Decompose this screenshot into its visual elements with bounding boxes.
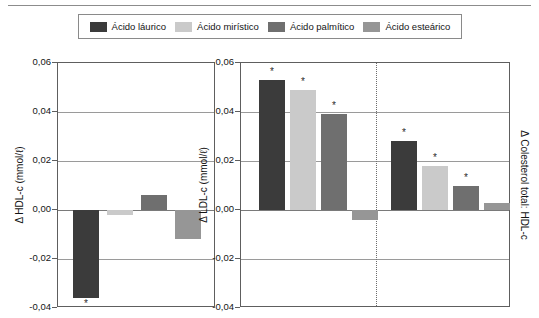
- legend-item-lauric: Ácido láurico: [90, 22, 166, 32]
- gridline: [241, 259, 509, 260]
- significance-marker: *: [433, 153, 437, 163]
- y-tick-label: 0,00: [194, 204, 234, 214]
- significance-marker: *: [270, 67, 274, 77]
- legend-item-myristic: Ácido mirístico: [175, 22, 259, 32]
- legend-label-stearic: Ácido esteárico: [385, 22, 450, 32]
- bar: [321, 114, 347, 210]
- ldl-chart-panel: ******: [240, 62, 510, 307]
- bar: [484, 203, 510, 210]
- y-tick-label: -0,04: [194, 302, 234, 312]
- y-tick-label: 0,04: [194, 106, 234, 116]
- y-tick-label: -0,04: [11, 302, 51, 312]
- legend-label-myristic: Ácido mirístico: [197, 22, 259, 32]
- bar: [422, 166, 448, 210]
- y-tick-label: 0,06: [194, 57, 234, 67]
- legend-swatch-palmitic: [268, 22, 285, 32]
- legend-swatch-lauric: [90, 22, 107, 32]
- bar: [352, 210, 378, 220]
- legend-label-palmitic: Ácido palmítico: [290, 22, 354, 32]
- y-tick-label: -0,02: [11, 253, 51, 263]
- hdl-chart-panel: *: [57, 62, 215, 307]
- bar: [259, 80, 285, 210]
- y-tick-mark: [52, 307, 57, 308]
- chart-legend: Ácido láurico Ácido mirístico Ácido palm…: [78, 14, 462, 39]
- legend-label-lauric: Ácido láurico: [112, 22, 166, 32]
- significance-marker: *: [464, 173, 468, 183]
- significance-marker: *: [84, 299, 88, 309]
- bar: [107, 210, 133, 215]
- bar: [290, 90, 316, 210]
- hdl-plot-area: *: [58, 63, 214, 306]
- bar: [391, 141, 417, 210]
- bar: [453, 186, 479, 211]
- chol-ratio-y-axis-title: Δ Colesterol total: HDL-c: [519, 130, 529, 240]
- group-divider-line: [376, 63, 377, 306]
- significance-marker: *: [301, 77, 305, 87]
- gridline: [58, 112, 214, 113]
- bar: [73, 210, 99, 298]
- y-tick-label: 0,06: [11, 57, 51, 67]
- ldl-plot-area: ******: [241, 63, 509, 306]
- y-tick-label: 0,02: [11, 155, 51, 165]
- legend-swatch-myristic: [175, 22, 192, 32]
- y-tick-label: 0,04: [11, 106, 51, 116]
- y-tick-label: -0,02: [194, 253, 234, 263]
- y-tick-label: 0,02: [194, 155, 234, 165]
- gridline: [58, 161, 214, 162]
- bar: [141, 195, 167, 210]
- legend-item-stearic: Ácido esteárico: [363, 22, 450, 32]
- legend-swatch-stearic: [363, 22, 380, 32]
- top-divider-rule: [8, 5, 531, 6]
- legend-item-palmitic: Ácido palmítico: [268, 22, 354, 32]
- y-tick-mark: [235, 307, 240, 308]
- significance-marker: *: [402, 128, 406, 138]
- y-tick-label: 0,00: [11, 204, 51, 214]
- significance-marker: *: [332, 101, 336, 111]
